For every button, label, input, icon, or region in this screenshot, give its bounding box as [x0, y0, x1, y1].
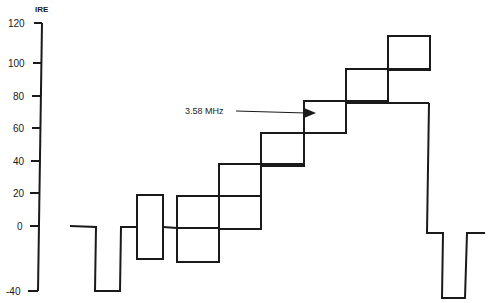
right-sync-pulse [427, 103, 485, 298]
step-5-box [346, 69, 388, 103]
tick-label-40: 40 [13, 156, 25, 167]
step-6-box [388, 36, 430, 70]
burst-to-step-line [163, 227, 177, 228]
staircase-steps [177, 36, 430, 262]
arrow-line [236, 111, 306, 113]
tick-label-neg40: -40 [6, 286, 21, 297]
tick-label-0: 0 [17, 221, 23, 232]
tick-label-60: 60 [13, 123, 25, 134]
tick-label-120: 120 [8, 18, 25, 29]
color-burst [137, 195, 163, 259]
tick-label-100: 100 [8, 58, 25, 69]
y-axis [28, 23, 42, 291]
y-axis-unit-label: IRE [35, 5, 49, 14]
tick-label-80: 80 [13, 91, 25, 102]
staircase-diagram: IRE 120 100 80 60 40 20 0 -40 3.58 MHz [0, 0, 491, 303]
step-3-box [261, 133, 304, 166]
left-sync-pulse [70, 226, 137, 291]
frequency-label: 3.58 MHz [185, 106, 224, 116]
subcarrier-annotation: 3.58 MHz [185, 106, 316, 118]
arrow-head-icon [304, 108, 316, 118]
tick-label-20: 20 [13, 188, 25, 199]
step-4-box [304, 101, 346, 133]
